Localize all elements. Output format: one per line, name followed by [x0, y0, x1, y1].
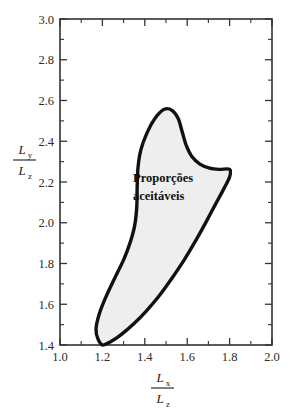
x-axis-numerator: L	[155, 370, 163, 385]
y-tick-label: 1.4	[38, 339, 54, 353]
x-axis-denominator: L	[155, 391, 163, 406]
x-tick-label: 1.8	[222, 350, 238, 364]
y-tick-label: 1.8	[38, 257, 54, 271]
y-tick-label: 2.0	[38, 216, 54, 230]
y-tick-label: 2.2	[38, 176, 54, 190]
y-tick-label: 2.4	[38, 135, 54, 149]
y-tick-label: 1.6	[38, 298, 54, 312]
y-tick-label: 2.8	[38, 53, 54, 67]
y-tick-label: 2.6	[38, 94, 54, 108]
y-tick-label: 3.0	[38, 13, 54, 27]
x-tick-label: 1.0	[52, 350, 68, 364]
region-label-line2: aceitáveis	[133, 189, 185, 203]
x-tick-label: 1.4	[137, 350, 153, 364]
x-axis-numerator-subscript: x	[166, 378, 171, 388]
y-axis-denominator-subscript: z	[28, 171, 32, 181]
x-tick-label: 2.0	[264, 350, 280, 364]
acceptable-proportions-chart: 1.01.21.41.61.82.0 1.41.61.82.02.22.42.6…	[0, 0, 291, 410]
x-tick-label: 1.6	[179, 350, 195, 364]
x-tick-label: 1.2	[95, 350, 111, 364]
y-axis-numerator-subscript: y	[28, 150, 33, 160]
region-label-line1: Proporções	[133, 171, 193, 185]
x-axis-denominator-subscript: z	[166, 399, 170, 409]
y-axis-tick-labels: 1.41.61.82.02.22.42.62.83.0	[38, 13, 54, 353]
y-axis-numerator: L	[17, 142, 25, 157]
y-axis-denominator: L	[17, 163, 25, 178]
